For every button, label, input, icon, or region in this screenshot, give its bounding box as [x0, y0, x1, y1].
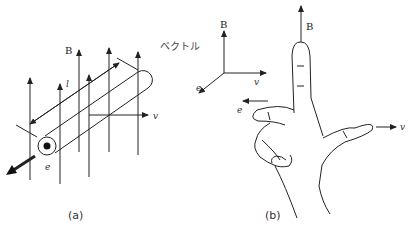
hand-label-B: B [306, 21, 313, 32]
thumb-crease [343, 131, 347, 138]
axis-label-v: v [254, 77, 259, 87]
wrist-line [319, 165, 330, 214]
label-e: e [45, 162, 50, 172]
thumb [322, 124, 373, 165]
label-B: B [65, 45, 72, 56]
middle-finger [253, 107, 294, 126]
fingernail [272, 156, 287, 163]
hand-label-v: v [400, 122, 405, 132]
fleming-right-hand-rule-diagram: B l v e (a) ベクトル B v e B v e (b) [0, 0, 411, 226]
vector-title: ベクトル [160, 41, 200, 52]
figure-b-hand [243, 6, 396, 218]
dimension-tick [117, 58, 138, 70]
finger-crease [262, 140, 280, 160]
label-v: v [153, 111, 158, 121]
rod-end [138, 71, 152, 88]
index-finger [292, 42, 323, 136]
finger-crease [268, 112, 270, 120]
caption-b: (b) [265, 209, 281, 222]
curled-fingers [255, 123, 292, 167]
figure-a [6, 48, 152, 184]
axis-e [199, 73, 224, 93]
axis-label-e: e [196, 83, 201, 93]
current-dot-icon [44, 143, 51, 150]
current-arrow [12, 156, 35, 171]
label-l: l [66, 79, 69, 89]
dimension-tick [16, 125, 37, 137]
caption-a: (a) [68, 209, 83, 222]
axis-label-B: B [220, 19, 227, 30]
hand-label-e: e [237, 105, 242, 115]
